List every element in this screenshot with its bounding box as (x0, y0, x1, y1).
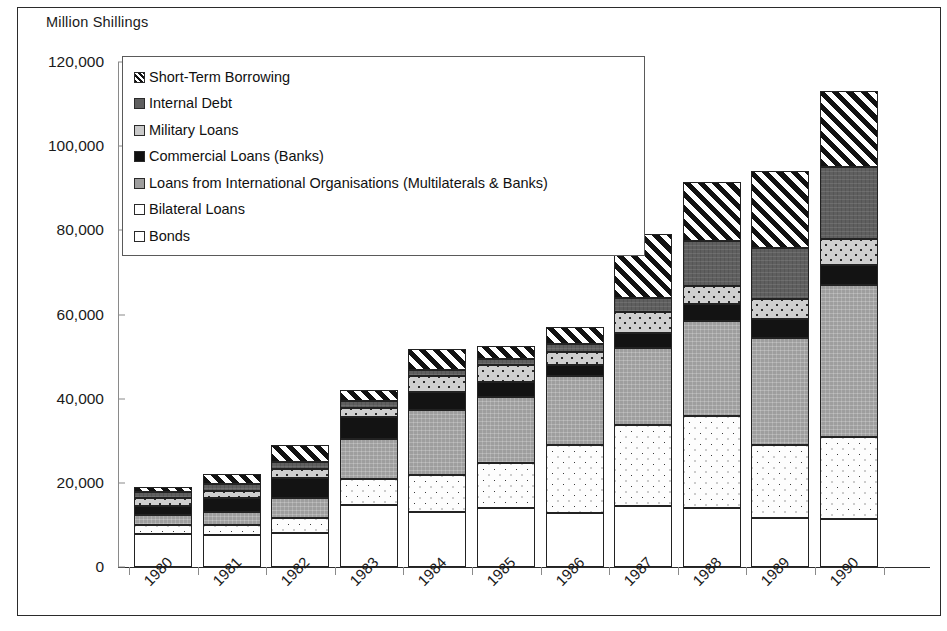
y-axis-tick-label: 60,000 (57, 306, 104, 324)
y-axis-tick-mark (118, 567, 125, 568)
bar-segment-bilateral-loans-1980[interactable] (134, 525, 192, 534)
bar-segment-military-loans-1984[interactable] (408, 376, 466, 392)
bar-segment-short-term-borrowing-1989[interactable] (751, 171, 809, 248)
bar-segment-short-term-borrowing-1988[interactable] (683, 182, 741, 241)
bar-segment-bilateral-loans-1983[interactable] (340, 479, 398, 505)
bar-segment-military-loans-1987[interactable] (614, 312, 672, 332)
dark-gray-icon (134, 98, 145, 109)
legend-item-label: Military Loans (149, 123, 238, 138)
bar-segment-internal-debt-1982[interactable] (271, 462, 329, 469)
bar-segment-internal-debt-1988[interactable] (683, 241, 741, 286)
bar-segment-commercial-loans-1990[interactable] (820, 265, 878, 285)
legend-item-label: Loans from International Organisations (… (149, 176, 548, 191)
bar-segment-military-loans-1980[interactable] (134, 498, 192, 505)
bar-segment-short-term-borrowing-1983[interactable] (340, 390, 398, 401)
bar-segment-internal-debt-1983[interactable] (340, 401, 398, 408)
bar-segment-internal-debt-1984[interactable] (408, 370, 466, 377)
bar-segment-internal-debt-1980[interactable] (134, 492, 192, 498)
legend-item-international-loans[interactable]: Loans from International Organisations (… (134, 174, 548, 192)
bar-segment-short-term-borrowing-1981[interactable] (203, 474, 261, 484)
bar-segment-commercial-loans-1984[interactable] (408, 392, 466, 410)
bar-segment-internal-debt-1987[interactable] (614, 298, 672, 313)
bar-segment-short-term-borrowing-1982[interactable] (271, 445, 329, 462)
y-axis-tick-label: 120,000 (48, 53, 104, 71)
bar-segment-military-loans-1990[interactable] (820, 239, 878, 265)
bar-segment-bilateral-loans-1984[interactable] (408, 475, 466, 512)
bar-segment-internal-debt-1989[interactable] (751, 248, 809, 299)
bar-segment-commercial-loans-1980[interactable] (134, 506, 192, 515)
bar-segment-short-term-borrowing-1984[interactable] (408, 349, 466, 370)
x-axis-tick-mark (266, 567, 267, 575)
bar-segment-military-loans-1989[interactable] (751, 299, 809, 319)
bar-segment-internal-debt-1981[interactable] (203, 484, 261, 491)
bar-segment-military-loans-1988[interactable] (683, 286, 741, 303)
bar-segment-bilateral-loans-1989[interactable] (751, 445, 809, 518)
y-axis-tick-label: 20,000 (57, 474, 104, 492)
bar-segment-bilateral-loans-1985[interactable] (477, 463, 535, 508)
legend-item-bonds[interactable]: Bonds (134, 227, 190, 245)
bar-segment-internal-debt-1985[interactable] (477, 359, 535, 365)
bar-segment-international-loans-1981[interactable] (203, 512, 261, 525)
bar-segment-commercial-loans-1988[interactable] (683, 304, 741, 321)
legend-item-bilateral-loans[interactable]: Bilateral Loans (134, 201, 245, 219)
bar-segment-international-loans-1980[interactable] (134, 515, 192, 526)
bar-segment-commercial-loans-1986[interactable] (546, 365, 604, 376)
bar-segment-bilateral-loans-1981[interactable] (203, 525, 261, 535)
legend-item-label: Bonds (149, 229, 190, 244)
bar-segment-military-loans-1981[interactable] (203, 491, 261, 498)
bar-segment-military-loans-1985[interactable] (477, 365, 535, 383)
bar-segment-international-loans-1982[interactable] (271, 498, 329, 518)
bar-segment-bilateral-loans-1982[interactable] (271, 518, 329, 533)
white-icon (134, 231, 145, 242)
bar-segment-international-loans-1985[interactable] (477, 397, 535, 463)
x-axis-tick-mark (815, 567, 816, 575)
bar-segment-military-loans-1986[interactable] (546, 352, 604, 365)
bar-segment-military-loans-1983[interactable] (340, 408, 398, 417)
bar-segment-commercial-loans-1981[interactable] (203, 498, 261, 512)
x-axis-tick-mark (403, 567, 404, 575)
bar-1989[interactable] (751, 62, 809, 567)
y-axis-tick-mark (118, 482, 125, 483)
bar-segment-international-loans-1989[interactable] (751, 338, 809, 445)
bar-segment-military-loans-1982[interactable] (271, 469, 329, 478)
bar-segment-international-loans-1987[interactable] (614, 348, 672, 425)
bar-segment-short-term-borrowing-1986[interactable] (546, 327, 604, 344)
bar-segment-short-term-borrowing-1980[interactable] (134, 487, 192, 492)
bar-segment-commercial-loans-1987[interactable] (614, 333, 672, 348)
medium-gray-icon (134, 178, 145, 189)
bar-segment-bilateral-loans-1990[interactable] (820, 437, 878, 519)
bar-segment-bilateral-loans-1987[interactable] (614, 425, 672, 506)
bar-segment-international-loans-1990[interactable] (820, 285, 878, 436)
legend-item-internal-debt[interactable]: Internal Debt (134, 95, 232, 113)
bar-1988[interactable] (683, 62, 741, 567)
y-axis-tick-mark (118, 314, 125, 315)
bar-segment-international-loans-1988[interactable] (683, 321, 741, 417)
bar-segment-internal-debt-1986[interactable] (546, 344, 604, 351)
chart-page: Million Shillings 020,00040,00060,00080,… (0, 0, 947, 631)
bar-segment-international-loans-1983[interactable] (340, 439, 398, 479)
bar-segment-bilateral-loans-1986[interactable] (546, 445, 604, 512)
legend-item-label: Commercial Loans (Banks) (149, 149, 324, 164)
x-axis-tick-mark (198, 567, 199, 575)
black-icon (134, 151, 145, 162)
bar-segment-international-loans-1986[interactable] (546, 376, 604, 445)
legend-item-short-term-borrowing[interactable]: Short-Term Borrowing (134, 68, 290, 86)
bar-segment-commercial-loans-1982[interactable] (271, 478, 329, 499)
y-axis-tick-label: 0 (95, 558, 104, 576)
legend-item-commercial-loans[interactable]: Commercial Loans (Banks) (134, 148, 324, 166)
bar-1990[interactable] (820, 62, 878, 567)
legend-item-military-loans[interactable]: Military Loans (134, 121, 238, 139)
bar-segment-commercial-loans-1985[interactable] (477, 382, 535, 397)
x-axis-tick-mark (609, 567, 610, 575)
x-axis-tick-mark (472, 567, 473, 575)
legend-item-label: Short-Term Borrowing (149, 70, 290, 85)
bar-segment-international-loans-1984[interactable] (408, 410, 466, 475)
x-axis-tick-mark (541, 567, 542, 575)
y-axis-tick-mark (118, 398, 125, 399)
bar-segment-internal-debt-1990[interactable] (820, 167, 878, 239)
bar-segment-commercial-loans-1983[interactable] (340, 417, 398, 439)
bar-segment-short-term-borrowing-1990[interactable] (820, 91, 878, 167)
bar-segment-bilateral-loans-1988[interactable] (683, 416, 741, 508)
bar-segment-short-term-borrowing-1985[interactable] (477, 346, 535, 359)
bar-segment-commercial-loans-1989[interactable] (751, 319, 809, 339)
